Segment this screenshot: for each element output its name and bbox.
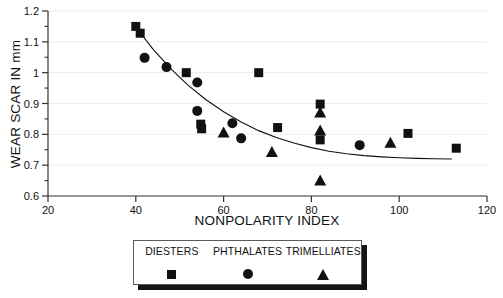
y-axis-tick-label: 1.1 (24, 36, 39, 48)
legend: DIESTERS PHTHALATES TRIMELLIATES (133, 240, 362, 285)
y-axis-title: WEAR SCAR IN mm (8, 40, 23, 168)
legend-label-cell: DIESTERS (134, 245, 210, 257)
square-data-point (136, 29, 145, 38)
x-axis-tick-label: 40 (130, 204, 142, 216)
square-data-point (452, 144, 461, 153)
legend-item-phthalates-label: PHTHALATES (213, 245, 282, 257)
triangle-data-point (314, 124, 326, 135)
square-data-point (273, 123, 282, 132)
y-axis: 0.60.70.80.911.11.2 (24, 5, 48, 202)
y-axis-tick-label: 1 (33, 67, 39, 79)
legend-box: DIESTERS PHTHALATES TRIMELLIATES (133, 240, 362, 285)
square-data-point (316, 135, 325, 144)
trend-line (136, 27, 452, 159)
square-marker-icon (167, 270, 176, 279)
square-data-point (254, 68, 263, 77)
legend-label-cell: TRIMELLIATES (285, 245, 361, 257)
x-axis-tick-label: 20 (42, 204, 54, 216)
circle-data-point (192, 78, 202, 88)
circle-data-point (355, 140, 365, 150)
triangle-data-point (314, 174, 326, 185)
x-axis-tick-label: 120 (478, 204, 496, 216)
square-data-point (182, 68, 191, 77)
legend-marker-cell (285, 269, 361, 280)
triangle-data-point (218, 127, 230, 138)
legend-item-diesters-label: DIESTERS (145, 245, 198, 257)
circle-marker-icon (243, 269, 253, 279)
legend-marker-cell (210, 269, 286, 279)
legend-item-trimelliates-label: TRIMELLIATES (286, 245, 361, 257)
circle-data-point (140, 53, 150, 63)
legend-label-cell: PHTHALATES (210, 245, 286, 257)
y-axis-tick-label: 0.6 (24, 190, 39, 202)
legend-labels-row: DIESTERS PHTHALATES TRIMELLIATES (134, 245, 361, 257)
y-axis-tick-label: 0.9 (24, 98, 39, 110)
triangle-data-point (384, 137, 396, 148)
circle-data-point (192, 106, 202, 116)
square-data-point (197, 124, 206, 133)
triangle-data-point (266, 146, 278, 157)
trend-line-path (136, 27, 452, 159)
legend-markers-row (134, 265, 361, 283)
figure: 0.60.70.80.911.11.2 20406080100120 NONPO… (0, 0, 503, 298)
y-axis-tick-label: 0.8 (24, 128, 39, 140)
square-data-point (403, 129, 412, 138)
gridlines (48, 11, 487, 165)
x-axis-tick-label: 100 (390, 204, 408, 216)
y-axis-tick-label: 1.2 (24, 5, 39, 17)
triangle-marker-icon (317, 269, 329, 280)
y-axis-tick-label: 0.7 (24, 159, 39, 171)
circle-data-point (236, 133, 246, 143)
x-axis-title: NONPOLARITY INDEX (195, 213, 340, 228)
circle-data-point (227, 118, 237, 128)
circle-data-point (162, 62, 172, 72)
legend-marker-cell (134, 270, 210, 279)
